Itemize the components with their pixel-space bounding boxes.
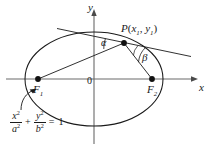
angle-alpha-label: α bbox=[101, 38, 106, 48]
focus-2-letter: F bbox=[147, 83, 154, 95]
x-axis-label: x bbox=[199, 82, 204, 93]
point-p-label: P(x1, y1) bbox=[121, 23, 157, 37]
equation-num2-exp: 2 bbox=[40, 109, 43, 116]
equation-den2-exp: 2 bbox=[41, 122, 44, 129]
equation-numerator-x: x2 bbox=[10, 110, 22, 122]
focus-2-label: F2 bbox=[147, 84, 157, 98]
equation-fraction-x: x2 a2 bbox=[10, 110, 22, 135]
point-p-paren-close: ) bbox=[154, 22, 158, 34]
y-axis-label: y bbox=[88, 2, 93, 13]
angle-arc-beta-inner bbox=[133, 46, 137, 56]
equation-equals-operator: = bbox=[48, 117, 56, 127]
ellipse-geometry-figure: y x 0 P(x1, y1) F1 F2 α β x2 a2 + y2 b2 … bbox=[0, 0, 212, 148]
equation-den1-exp: 2 bbox=[17, 122, 20, 129]
focal-radius-f2-p bbox=[124, 43, 152, 79]
equation-fraction-y: y2 b2 bbox=[34, 110, 46, 135]
point-marker-f1 bbox=[35, 76, 41, 82]
point-marker-f2 bbox=[149, 76, 155, 82]
ellipse-equation-label: x2 a2 + y2 b2 = 1 bbox=[10, 110, 64, 135]
equation-numerator-y: y2 bbox=[34, 110, 46, 122]
origin-label: 0 bbox=[87, 76, 92, 86]
point-p-letter: P bbox=[121, 22, 128, 34]
y-axis bbox=[91, 9, 96, 144]
angle-beta-label: β bbox=[142, 52, 147, 63]
equation-denominator-b: b2 bbox=[34, 122, 46, 135]
equation-plus-operator: + bbox=[24, 117, 32, 127]
equation-right-hand-side: 1 bbox=[57, 117, 64, 127]
focus-1-label: F1 bbox=[33, 84, 43, 98]
focus-1-letter: F bbox=[33, 83, 40, 95]
x-axis bbox=[6, 76, 198, 81]
focus-2-sub: 2 bbox=[154, 90, 157, 97]
equation-num1-exp: 2 bbox=[17, 109, 20, 116]
focal-radius-f1-p bbox=[38, 43, 124, 79]
point-marker-p bbox=[121, 40, 127, 46]
equation-denominator-a: a2 bbox=[10, 122, 22, 135]
focus-1-sub: 1 bbox=[40, 90, 43, 97]
